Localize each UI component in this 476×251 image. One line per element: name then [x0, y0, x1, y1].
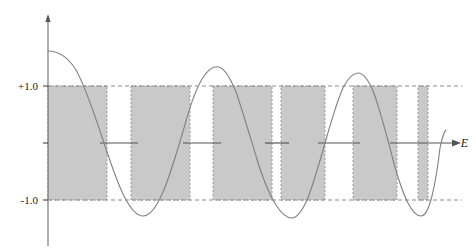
oscillation-plot: +1.0 -1.0 E	[0, 0, 476, 251]
shaded-band	[131, 86, 190, 200]
y-axis-tick-label-upper: +1.0	[18, 80, 38, 92]
chart-figure: +1.0 -1.0 E	[0, 0, 476, 251]
x-axis-title: E	[460, 136, 469, 150]
shaded-band	[213, 86, 272, 200]
shaded-band	[48, 86, 107, 200]
y-axis-tick-label-lower: -1.0	[21, 194, 39, 206]
